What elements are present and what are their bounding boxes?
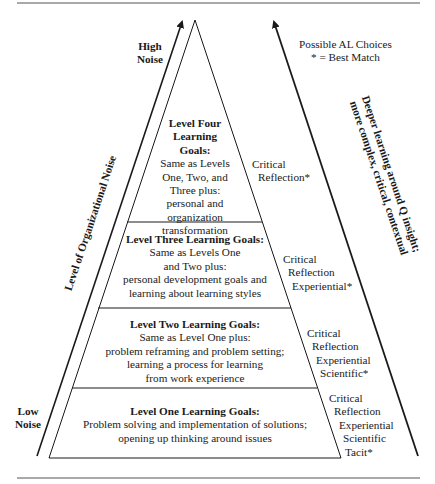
level-four-body-1: Same as Levels [135, 157, 255, 170]
level-four-body-2: One, Two, and [135, 171, 255, 184]
level-three-body-1: Same as Levels One [95, 246, 295, 259]
level-four-body-3: Three plus: [135, 184, 255, 197]
level-one-choice-3: Experiential [329, 419, 394, 432]
level-one-body-2: opening up thinking around issues [60, 432, 330, 445]
level-three-choice-3: Experiential* [283, 280, 352, 293]
low-noise-label: Low Noise [8, 405, 48, 432]
level-four-box: Level Four Learning Goals: Same as Level… [135, 117, 255, 238]
level-two-body-2: problem reframing and problem setting; [80, 345, 310, 358]
level-three-body-4: learning about learning styles [95, 287, 295, 300]
level-two-box: Level Two Learning Goals: Same as Level … [80, 318, 310, 385]
level-two-title: Level Two Learning Goals: [80, 318, 310, 331]
level-two-body-4: from work experience [80, 372, 310, 385]
high-noise-line-1: High [125, 40, 175, 53]
level-one-choice-1: Critical [329, 392, 394, 405]
level-one-choices: Critical Reflection Experiential Scienti… [329, 392, 394, 459]
level-two-choice-2: Reflection [307, 340, 371, 353]
level-two-choices: Critical Reflection Experiential Scienti… [307, 327, 371, 381]
level-four-choice-1: Critical [252, 158, 310, 171]
level-two-body-3: learning a process for learning [80, 358, 310, 371]
level-three-body-2: and Two plus: [95, 260, 295, 273]
level-one-choice-2: Reflection [329, 405, 394, 418]
level-two-choice-4: Scientific* [307, 367, 371, 380]
level-four-body-5: organization [135, 211, 255, 224]
level-one-box: Level One Learning Goals: Problem solvin… [60, 405, 330, 445]
level-four-title-3: Goals: [135, 144, 255, 157]
level-two-body-1: Same as Level One plus: [80, 331, 310, 344]
level-one-body-1: Problem solving and implementation of so… [60, 418, 330, 431]
level-three-title: Level Three Learning Goals: [95, 233, 295, 246]
level-four-title-2: Learning [135, 130, 255, 143]
level-four-title-1: Level Four [135, 117, 255, 130]
high-noise-line-2: Noise [125, 53, 175, 66]
legend-line-1: Possible AL Choices [283, 38, 408, 51]
level-one-choice-5: Tacit* [329, 446, 394, 459]
al-choices-legend: Possible AL Choices * = Best Match [283, 38, 408, 65]
level-one-choice-4: Scientific [329, 432, 394, 445]
level-one-title: Level One Learning Goals: [60, 405, 330, 418]
level-three-choice-2: Reflection [283, 266, 352, 279]
level-three-choices: Critical Reflection Experiential* [283, 253, 352, 293]
level-four-body-4: personal and [135, 197, 255, 210]
level-three-choice-1: Critical [283, 253, 352, 266]
level-four-choice-2: Reflection* [252, 171, 310, 184]
level-three-box: Level Three Learning Goals: Same as Leve… [95, 233, 295, 300]
level-three-body-3: personal development goals and [95, 273, 295, 286]
level-two-choice-1: Critical [307, 327, 371, 340]
high-noise-label: High Noise [125, 40, 175, 67]
level-two-choice-3: Experiential [307, 354, 371, 367]
low-noise-line-1: Low [8, 405, 48, 418]
low-noise-line-2: Noise [8, 418, 48, 431]
level-four-choices: Critical Reflection* [252, 158, 310, 185]
legend-line-2: * = Best Match [283, 51, 408, 64]
